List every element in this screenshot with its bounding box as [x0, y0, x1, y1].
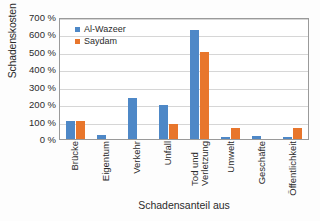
x-axis-tick-label-line: Umwelt: [225, 141, 236, 173]
bar[interactable]: [200, 52, 209, 139]
x-axis-title: Schadensanteil aus: [59, 199, 309, 212]
y-axis-tick-label: 0 %: [20, 135, 56, 145]
y-axis-tick-label: 100 %: [20, 118, 56, 128]
legend-label: Saydam: [84, 36, 117, 46]
legend-entry[interactable]: Al-Wazeer: [75, 24, 126, 34]
bar[interactable]: [76, 121, 85, 139]
bar-group: [246, 19, 277, 139]
y-axis-tick-labels: 0 %100 %200 %300 %400 %500 %600 %700 %: [20, 14, 56, 140]
x-axis-tick-label-line: Eigentum: [100, 141, 111, 181]
x-axis-tick-label-line: Verletzung: [200, 141, 210, 186]
x-axis-tick: Geschäfte: [247, 141, 278, 197]
y-axis-tick-label: 400 %: [20, 65, 56, 75]
bar[interactable]: [283, 137, 292, 139]
x-axis-tick: Unfall: [153, 141, 184, 197]
x-axis-tick: Tod undVerletzung: [184, 141, 215, 197]
bar-chart-figure: Schadenskosten normiert 0 %100 %200 %300…: [0, 0, 320, 221]
x-axis-tick-label-line: Öffentlichkeit: [287, 141, 298, 196]
y-axis-tick-label: 300 %: [20, 83, 56, 93]
legend-swatch-icon: [75, 27, 80, 32]
bar[interactable]: [190, 30, 199, 139]
bar-group: [215, 19, 246, 139]
x-axis-tick-label: Umwelt: [226, 141, 236, 173]
x-axis-tick-label-line: Tod und: [189, 152, 200, 186]
legend-swatch-icon: [75, 39, 80, 44]
x-axis-tick-label: Tod undVerletzung: [190, 141, 210, 186]
x-axis-tick-label-line: Geschäfte: [256, 141, 267, 184]
bar[interactable]: [66, 121, 75, 139]
x-axis-tick-label: Brücke: [70, 141, 80, 171]
bar-group: [184, 19, 215, 139]
bar[interactable]: [128, 98, 137, 139]
x-axis-tick-labels: BrückeEigentumVerkehrUnfallTod undVerlet…: [59, 141, 309, 197]
legend-label: Al-Wazeer: [84, 24, 126, 34]
y-axis-tick-label: 700 %: [20, 13, 56, 23]
legend-entry[interactable]: Saydam: [75, 36, 126, 46]
bar-group: [277, 19, 308, 139]
x-axis-tick: Verkehr: [122, 141, 153, 197]
bar[interactable]: [252, 136, 261, 139]
x-axis-tick-label-line: Verkehr: [131, 141, 142, 174]
x-axis-tick-label: Geschäfte: [257, 141, 267, 184]
chart-legend: Al-WazeerSaydam: [75, 24, 126, 46]
bar[interactable]: [231, 128, 240, 139]
x-axis-tick: Brücke: [59, 141, 90, 197]
x-axis-tick-label: Verkehr: [132, 141, 142, 174]
x-axis-tick-label: Öffentlichkeit: [288, 141, 298, 196]
bar-group: [153, 19, 184, 139]
x-axis-tick-label-line: Brücke: [69, 141, 80, 171]
x-axis-tick-label: Unfall: [163, 141, 173, 165]
bar[interactable]: [293, 128, 302, 139]
x-axis-tick: Eigentum: [90, 141, 121, 197]
y-axis-title: Schadenskosten normiert: [5, 0, 19, 85]
x-axis-tick-label: Eigentum: [101, 141, 111, 181]
bar-group: [122, 19, 153, 139]
bar[interactable]: [159, 105, 168, 139]
bar[interactable]: [221, 137, 230, 139]
bar[interactable]: [97, 135, 106, 139]
y-axis-tick-label: 200 %: [20, 100, 56, 110]
x-axis-tick: Umwelt: [215, 141, 246, 197]
y-axis-tick-label: 600 %: [20, 30, 56, 40]
bar[interactable]: [169, 124, 178, 139]
y-axis-tick-label: 500 %: [20, 48, 56, 58]
x-axis-tick-label-line: Unfall: [162, 141, 173, 165]
x-axis-tick: Öffentlichkeit: [278, 141, 309, 197]
